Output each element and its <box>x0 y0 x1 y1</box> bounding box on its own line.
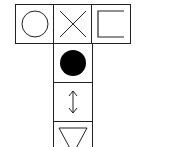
net-face-triangle <box>53 121 93 147</box>
inverted-triangle-icon <box>54 122 92 147</box>
filled-circle-icon <box>54 44 92 82</box>
cross-x-icon <box>54 5 92 43</box>
circle-outline-icon <box>16 5 54 43</box>
net-face-arrow <box>53 82 93 122</box>
bracket-square-icon <box>92 5 130 43</box>
net-face-cross <box>53 4 93 44</box>
net-face-circle <box>15 4 55 44</box>
net-face-filled-circle <box>53 43 93 83</box>
net-face-bracket <box>91 4 131 44</box>
up-down-arrow-icon <box>54 83 92 121</box>
